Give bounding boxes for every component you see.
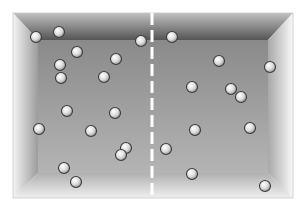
particle-right-3	[187, 82, 198, 93]
particle-left-10	[34, 124, 45, 135]
particle-left-3	[55, 60, 66, 71]
particle-left-14	[59, 163, 70, 174]
particle-left-1	[54, 27, 65, 38]
particle-right-10	[260, 181, 271, 192]
particle-left-5	[111, 54, 122, 65]
particle-left-4	[56, 73, 67, 84]
particle-right-1	[214, 56, 225, 67]
particle-right-5	[236, 92, 247, 103]
particle-left-11	[86, 126, 97, 137]
particle-right-4	[226, 84, 237, 95]
particle-right-9	[187, 169, 198, 180]
particle-left-2	[72, 47, 83, 58]
particle-box-diagram	[0, 0, 306, 212]
particle-left-7	[136, 36, 147, 47]
diagram-canvas	[0, 0, 306, 212]
particle-left-8	[62, 106, 73, 117]
particle-right-8	[161, 144, 172, 155]
right-wall	[268, 13, 293, 198]
particle-left-9	[110, 108, 121, 119]
particle-left-13	[116, 150, 127, 161]
particle-left-15	[71, 177, 82, 188]
particle-left-6	[99, 72, 110, 83]
particle-right-0	[167, 32, 178, 43]
particle-right-7	[245, 123, 256, 134]
particle-right-6	[190, 125, 201, 136]
particle-right-2	[265, 62, 276, 73]
particle-left-0	[31, 32, 42, 43]
